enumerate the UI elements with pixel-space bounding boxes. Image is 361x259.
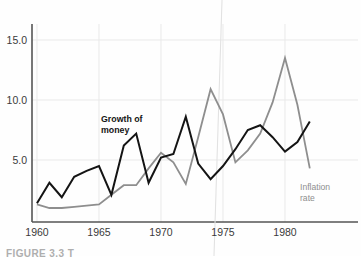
series-label-growth-of-money-line2: money	[101, 125, 129, 135]
y-axis-tick-label: 5.0	[12, 154, 27, 166]
y-axis-tick-label: 10.0	[7, 94, 28, 106]
x-axis-tick-label: 1960	[25, 226, 49, 238]
x-axis-tick-label: 1980	[273, 226, 297, 238]
series-label-inflation-rate-line1: Inflation	[300, 182, 330, 192]
x-axis-tick-labels: 19601965197019751980	[25, 226, 297, 238]
series-label-inflation-rate-line2: rate	[300, 193, 315, 203]
x-axis-tick-label: 1975	[211, 226, 235, 238]
series-paths	[37, 58, 310, 208]
series-label-growth-of-money-line1: Growth of	[101, 114, 143, 124]
x-axis-tick-label: 1965	[87, 226, 111, 238]
y-axis-tick-label: 15.0	[7, 34, 28, 46]
figure-caption: FIGURE 3.3 T	[6, 248, 74, 259]
y-axis-tick-labels: 5.010.015.0	[7, 34, 28, 166]
x-axis-tick-label: 1970	[149, 226, 173, 238]
scan-artifact-line	[214, 0, 222, 256]
